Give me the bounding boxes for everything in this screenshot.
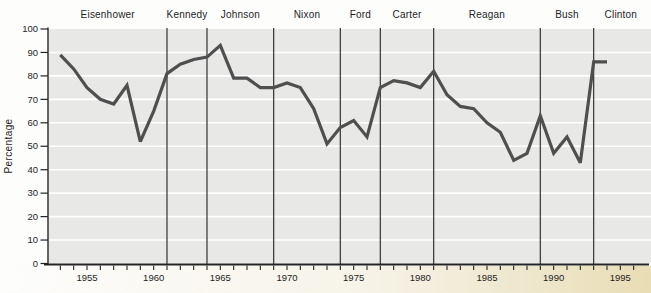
y-tick-label-0: 0 (33, 258, 38, 269)
president-label-carter: Carter (392, 9, 421, 20)
x-tick-label-1980: 1980 (410, 272, 431, 283)
president-label-reagan: Reagan (469, 9, 505, 20)
president-label-eisenhower: Eisenhower (81, 9, 136, 20)
president-label-kennedy: Kennedy (167, 9, 208, 20)
president-label-ford: Ford (350, 9, 371, 20)
y-tick-label-60: 60 (27, 117, 38, 128)
y-tick-label-90: 90 (27, 47, 38, 58)
x-tick-label-1975: 1975 (343, 272, 364, 283)
y-tick-label-100: 100 (22, 23, 38, 34)
president-label-johnson: Johnson (221, 9, 260, 20)
chart-canvas: 0102030405060708090100195519601965197019… (0, 0, 651, 293)
y-tick-label-80: 80 (27, 70, 38, 81)
x-tick-label-1965: 1965 (210, 272, 231, 283)
president-label-nixon: Nixon (294, 9, 321, 20)
y-tick-label-50: 50 (27, 140, 38, 151)
y-tick-label-10: 10 (27, 234, 38, 245)
x-tick-label-1960: 1960 (143, 272, 164, 283)
president-label-clinton: Clinton (605, 9, 638, 20)
y-axis-title: Percentage (3, 118, 14, 173)
x-tick-label-1990: 1990 (543, 272, 564, 283)
x-tick-label-1985: 1985 (476, 272, 497, 283)
x-tick-label-1955: 1955 (76, 272, 97, 283)
y-tick-label-20: 20 (27, 211, 38, 222)
president-label-bush: Bush (555, 9, 579, 20)
presidential-success-line-chart: 0102030405060708090100195519601965197019… (0, 0, 651, 293)
y-tick-label-30: 30 (27, 187, 38, 198)
y-tick-label-40: 40 (27, 164, 38, 175)
x-tick-label-1995: 1995 (610, 272, 631, 283)
y-tick-label-70: 70 (27, 94, 38, 105)
x-tick-label-1970: 1970 (276, 272, 297, 283)
